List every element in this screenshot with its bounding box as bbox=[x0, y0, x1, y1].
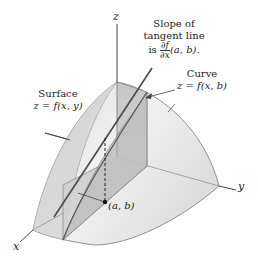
x-axis-label: x bbox=[13, 241, 19, 254]
slope-point: (a, b). bbox=[170, 44, 200, 55]
partial-derivative-diagram bbox=[0, 0, 258, 261]
y-axis bbox=[219, 186, 236, 190]
point-label: (a, b) bbox=[108, 200, 135, 212]
slope-line3: is ∂f ∂x (a, b). bbox=[134, 41, 214, 60]
curve-annotation: Curve z = f(x, b) bbox=[172, 68, 232, 91]
slope-annotation: Slope of tangent line is ∂f ∂x (a, b). bbox=[134, 18, 214, 60]
curve-line2: z = f(x, b) bbox=[172, 80, 232, 92]
surface-annotation: Surface z = f(x, y) bbox=[28, 88, 88, 111]
curve-line1: Curve bbox=[172, 68, 232, 80]
curve-arrow-line bbox=[148, 90, 175, 97]
frac-denominator: ∂x bbox=[160, 51, 170, 60]
surface-line1: Surface bbox=[28, 88, 88, 100]
slope-line1: Slope of bbox=[134, 18, 214, 30]
slope-is: is bbox=[148, 44, 156, 55]
slope-line2: tangent line bbox=[134, 30, 214, 42]
surface-line2: z = f(x, y) bbox=[28, 100, 88, 112]
point-a-b bbox=[103, 200, 107, 204]
y-axis-label: y bbox=[238, 181, 244, 194]
partial-fraction: ∂f ∂x bbox=[160, 41, 170, 60]
z-axis-label: z bbox=[113, 11, 119, 24]
x-axis bbox=[20, 230, 33, 242]
axis-stub-left bbox=[45, 133, 70, 140]
